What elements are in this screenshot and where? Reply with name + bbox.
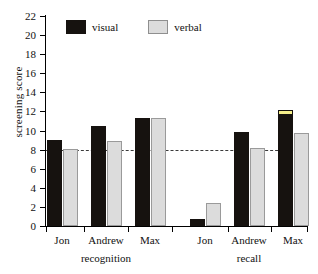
y-tick-label: 4 [2, 188, 36, 189]
chart-legend: visualverbal [66, 20, 226, 34]
legend-swatch-verbal [148, 20, 168, 34]
legend-label-visual: visual [92, 21, 118, 33]
x-tick [307, 227, 308, 232]
x-tick [172, 227, 173, 232]
bar-verbal-2 [151, 118, 166, 226]
bar-verbal-0 [63, 149, 78, 226]
y-tick-label: 18 [2, 54, 36, 55]
x-tick [271, 227, 272, 232]
bar-verbal-4 [250, 148, 265, 226]
legend-label-verbal: verbal [174, 21, 201, 33]
y-tick-label: 0 [2, 226, 36, 227]
y-tick-label: 10 [2, 131, 36, 132]
x-tick [84, 227, 85, 232]
x-tick-label-max-2: Max [120, 234, 180, 246]
bar-verbal-3 [206, 203, 221, 226]
legend-item-verbal: verbal [148, 20, 201, 34]
bar-visual-1 [91, 126, 106, 226]
x-group-label-recall: recall [199, 252, 299, 264]
bar-visual-5 [278, 110, 293, 226]
bar-highlight-cap [279, 111, 292, 114]
bar-visual-2 [135, 118, 150, 226]
bar-visual-3 [190, 219, 205, 226]
y-tick-label: 22 [2, 16, 36, 17]
x-tick-label-max-5: Max [263, 234, 318, 246]
y-tick-label: 20 [2, 35, 36, 36]
y-tick-label: 2 [2, 207, 36, 208]
bar-visual-4 [234, 132, 249, 226]
y-axis-label: screening score [12, 42, 24, 162]
x-group-label-recognition: recognition [56, 252, 156, 264]
y-tick-label: 14 [2, 92, 36, 93]
x-tick [228, 227, 229, 232]
x-tick [46, 227, 47, 232]
y-tick-label: 6 [2, 169, 36, 170]
legend-swatch-visual [66, 20, 86, 34]
y-tick-label: 12 [2, 111, 36, 112]
y-tick-label: 8 [2, 150, 36, 151]
bar-verbal-1 [107, 141, 122, 226]
x-tick [128, 227, 129, 232]
bar-visual-0 [47, 140, 62, 226]
bar-chart: screening score 0246810121416182022 JonA… [0, 0, 318, 274]
bar-series-area [46, 16, 308, 226]
legend-item-visual: visual [66, 20, 118, 34]
y-tick-label: 16 [2, 73, 36, 74]
bar-verbal-5 [294, 133, 309, 226]
